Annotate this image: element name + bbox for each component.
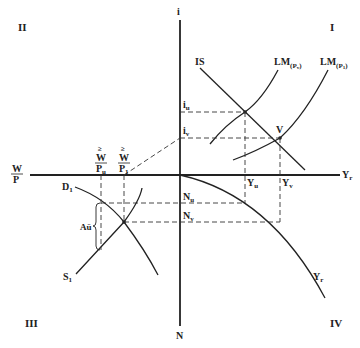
nu-label: Nu <box>183 191 194 204</box>
yu-label: Yu <box>247 177 258 190</box>
output-axis-label: Yr <box>342 169 352 182</box>
unemployment-gap-label: Aü <box>80 222 92 232</box>
interest-axis-label: i <box>177 6 180 17</box>
production-curve <box>180 175 325 298</box>
wp1-iv-dashed-line <box>124 138 180 175</box>
nv-label: Nv <box>183 210 194 223</box>
is-lm-four-quadrant-diagram: II I III IV i N Yr W P IS LM(Pv) LM(P1) … <box>0 0 360 348</box>
quadrant-iii-label: III <box>25 317 38 329</box>
labor-demand-label: D1 <box>62 181 73 194</box>
iv-label: iv <box>183 125 190 138</box>
is-curve <box>200 68 305 170</box>
iu-label: iu <box>183 99 190 112</box>
real-wage-axis-den: P <box>13 174 19 185</box>
wp1-den: P1 <box>119 163 129 176</box>
real-wage-axis-num: W <box>12 163 22 174</box>
is-label: IS <box>195 56 205 67</box>
unemployment-brace <box>93 203 100 250</box>
labor-supply-label: S1 <box>63 271 73 284</box>
wp1-num: W <box>119 152 129 163</box>
point-v-label: V <box>276 124 284 135</box>
production-label: Yr <box>313 271 323 284</box>
quadrant-ii-label: II <box>18 21 27 33</box>
employment-axis-label: N <box>176 330 184 341</box>
wpu-den: Pu <box>96 163 106 176</box>
lm-p1-label: LM(P1) <box>320 56 348 70</box>
labor-equilibrium-point <box>122 220 126 224</box>
quadrant-i-label: I <box>330 21 334 33</box>
yv-label: Yv <box>282 177 293 190</box>
lm-pv-curve <box>210 70 278 144</box>
quadrant-iv-label: IV <box>330 317 342 329</box>
wpu-num: W <box>96 152 106 163</box>
lm-pv-label: LM(Pv) <box>274 56 302 70</box>
